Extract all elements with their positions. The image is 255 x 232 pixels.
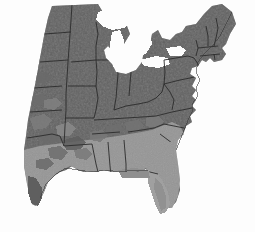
florida-panhandle [118, 168, 150, 178]
us-raster-map [0, 0, 255, 232]
map-figure: Eastern and Central United States raster… [0, 0, 255, 232]
lake-michigan [110, 30, 124, 68]
